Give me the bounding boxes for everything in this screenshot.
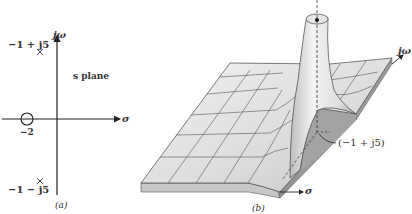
jw-arrow-b: [392, 55, 403, 64]
s-plane-plot: [2, 36, 120, 195]
zero-label: −2: [20, 127, 34, 137]
s-plane-label: s plane: [73, 71, 109, 81]
jw-axis-label: jω: [53, 29, 66, 40]
caption-a: (a): [55, 200, 67, 210]
caption-b: (b): [252, 203, 265, 213]
jw-axis-label-b: jω: [398, 45, 411, 56]
magnitude-surface: [141, 0, 403, 198]
pole-annotation: (−1 + j5): [338, 137, 385, 148]
sigma-axis-label: σ: [122, 113, 129, 124]
pole-upper-label: −1 + j5: [8, 39, 49, 50]
pole-lower-label: −1 − j5: [8, 184, 49, 195]
sigma-axis-label-b: σ: [305, 185, 312, 196]
